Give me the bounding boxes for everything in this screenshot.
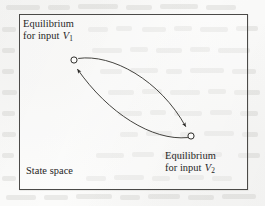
equilibrium-v2-line1: Equilibrium <box>165 150 216 161</box>
state-space-figure: Equilibrium for input V1 Equilibrium for… <box>0 0 265 206</box>
equilibrium-v1-line1: Equilibrium <box>23 18 74 29</box>
equilibrium-v1-line2-prefix: for input <box>23 30 62 41</box>
equilibrium-v2-line2-prefix: for input <box>165 162 204 173</box>
equilibrium-v1-subscript: 1 <box>69 34 73 43</box>
equilibrium-v2-subscript: 2 <box>211 166 215 175</box>
state-space-label: State space <box>26 165 73 177</box>
equilibrium-v2-label: Equilibrium for input V2 <box>165 150 216 177</box>
equilibrium-v1-label: Equilibrium for input V1 <box>23 18 74 45</box>
